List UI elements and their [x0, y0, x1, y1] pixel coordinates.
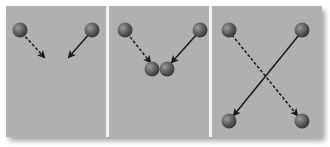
sphere-particle [222, 23, 237, 38]
sphere-particle [118, 23, 133, 38]
arrow-dashed [127, 33, 150, 62]
arrow-solid [172, 33, 198, 62]
sphere-particle [193, 23, 208, 38]
diagram-graphics [0, 0, 330, 147]
arrow-dashed [232, 35, 297, 115]
sphere-particle [85, 23, 100, 38]
arrow-dashed [22, 33, 44, 57]
sphere-particle [222, 114, 237, 129]
sphere-particle [145, 62, 160, 77]
sphere-particle [13, 23, 28, 38]
sphere-particle [160, 62, 175, 77]
arrow-solid [234, 35, 299, 115]
sphere-particle [295, 23, 310, 38]
arrow-solid [69, 33, 90, 57]
sphere-particle [295, 114, 310, 129]
